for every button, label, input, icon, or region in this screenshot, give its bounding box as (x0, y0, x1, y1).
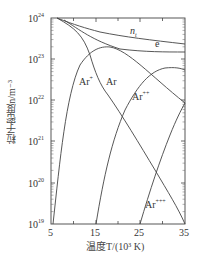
svg-text:1020: 1020 (28, 177, 44, 189)
label-ar2: Ar++ (132, 90, 150, 102)
svg-text:1019: 1019 (28, 218, 44, 230)
label-ar1: Ar+ (79, 75, 94, 87)
label-ar: Ar (106, 76, 117, 87)
svg-text:5: 5 (48, 227, 53, 238)
svg-text:15: 15 (90, 227, 100, 238)
density-chart: 1024 1023 1022 1021 1020 1019 5 15 25 35… (0, 0, 199, 264)
label-nt: nt (130, 25, 137, 38)
plot-frame (51, 18, 185, 224)
x-tick-labels: 5 15 25 35 (48, 227, 189, 238)
x-axis-label: 温度T/(10³ K) (86, 238, 144, 253)
y-tick-labels: 1024 1023 1022 1021 1020 1019 (28, 12, 44, 230)
svg-text:1022: 1022 (28, 94, 44, 106)
svg-text:25: 25 (134, 227, 144, 238)
svg-text:1021: 1021 (28, 135, 44, 147)
y-ticks (51, 59, 185, 183)
svg-text:35: 35 (179, 227, 189, 238)
label-ar3: Ar+++ (145, 198, 166, 210)
svg-text:1024: 1024 (28, 12, 44, 24)
y-axis-label: 粒子密度n/m⁻³ (6, 80, 20, 144)
label-e: e (155, 38, 160, 49)
svg-text:1023: 1023 (28, 53, 44, 65)
